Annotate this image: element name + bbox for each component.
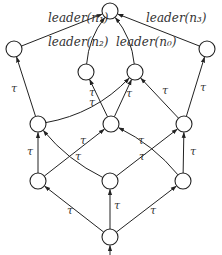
edge-label-l4c-to-l2b: τ <box>200 81 207 94</box>
state-node-l2a <box>6 41 22 57</box>
state-node-l4b <box>103 116 119 132</box>
edge-l4c-to-l3b <box>141 78 179 118</box>
edge-label-l5b-to-l4c: τ <box>139 150 146 163</box>
edge-label-root-to-l5a: τ <box>67 204 74 217</box>
edge-label-l2a-to-top: leader(n₁) <box>48 11 109 25</box>
edge-label-l5b-to-l4a: τ <box>80 134 87 147</box>
state-node-l4c <box>176 116 192 132</box>
state-node-l3a <box>78 64 94 80</box>
state-node-l5c <box>175 173 191 189</box>
edge-label-root-to-l5b: τ <box>114 199 121 212</box>
edge-root-to-l5c <box>116 186 176 232</box>
edge-label-l5a-to-l4a: τ <box>27 145 34 158</box>
edge-l5b-to-l4c <box>116 129 177 176</box>
state-node-l3b <box>127 64 143 80</box>
edge-root-to-l5a <box>45 186 104 232</box>
state-node-l5a <box>30 173 46 189</box>
state-node-l2b <box>199 41 215 57</box>
edge-l4a-to-l2a <box>17 57 36 116</box>
edge-label-l4b-to-l3a: τ <box>89 86 96 99</box>
edge-label-l4c-to-l3b: τ <box>162 84 169 97</box>
state-node-l4a <box>30 116 46 132</box>
edge-label-l5a-to-l4b: τ <box>75 150 82 163</box>
edge-label-l3b-to-top: leader(n₀) <box>116 35 177 49</box>
edge-l5c-to-l4c <box>183 132 184 173</box>
transition-graph: leader(n₁)leader(n₂)leader(n₀)leader(n₃)… <box>0 0 222 255</box>
edge-l4a-to-l3b <box>46 78 129 122</box>
edge-label-l5c-to-l4c: τ <box>190 145 197 158</box>
edge-label-l4b-to-l3b: τ <box>126 87 133 100</box>
edge-label-l2b-to-top: leader(n₃) <box>146 11 207 25</box>
state-node-l5b <box>102 173 118 189</box>
edge-label-root-to-l5c: τ <box>150 204 157 217</box>
edge-label-l5c-to-l4b: τ <box>138 134 145 147</box>
state-node-root <box>102 229 118 245</box>
edge-label-l3a-to-top: leader(n₂) <box>48 35 109 49</box>
edge-label-l4a-to-l2a: τ <box>11 82 18 95</box>
